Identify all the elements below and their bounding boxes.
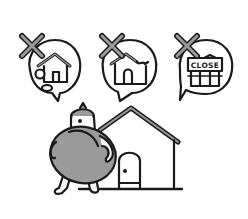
illustration-canvas: CLOSE (0, 0, 248, 219)
close-sign-text: CLOSE (191, 61, 219, 70)
door-icon (119, 153, 140, 188)
illustration-svg: CLOSE (0, 0, 248, 219)
person-figure-icon (45, 103, 121, 194)
